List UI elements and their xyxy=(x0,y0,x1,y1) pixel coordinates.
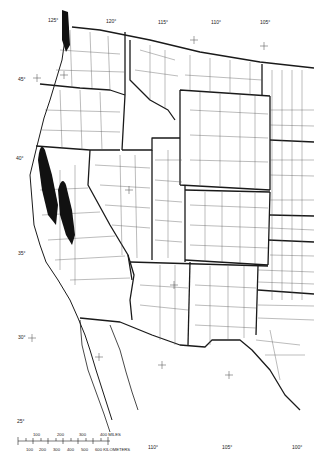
lon-label-105-top: 105° xyxy=(260,19,270,25)
scale-km-200: 200 xyxy=(39,447,46,452)
ut-north xyxy=(122,138,180,150)
nm-east xyxy=(256,266,258,335)
az-nm-border xyxy=(188,262,190,345)
ne-ks xyxy=(268,215,314,242)
scale-miles-100: 100 xyxy=(33,432,40,437)
lon-label-105-bottom: 105° xyxy=(222,444,232,450)
az-ca-river xyxy=(128,255,134,320)
ok-tx xyxy=(258,290,314,294)
lon-label-115-top: 115° xyxy=(158,19,168,25)
lon-label-120-top: 120° xyxy=(106,18,116,24)
county-lines xyxy=(40,30,314,380)
or-ca-border xyxy=(36,146,120,150)
lon-label-110-bottom: 110° xyxy=(148,444,158,450)
scale-km-400: 400 xyxy=(67,447,74,452)
scale-bar-lines xyxy=(18,437,110,445)
idaho-montana xyxy=(130,40,175,120)
wy-box xyxy=(180,90,270,190)
lon-label-125-top: 125° xyxy=(48,17,58,23)
shaded-region xyxy=(38,10,75,245)
lat-label-25: 25° xyxy=(17,418,25,424)
scale-km-500: 500 xyxy=(81,447,88,452)
scale-miles-300: 300 xyxy=(79,432,86,437)
lat-label-45: 45° xyxy=(18,76,26,82)
ca-nv-border xyxy=(88,150,132,280)
scale-miles-200: 200 xyxy=(57,432,64,437)
lat-label-30: 30° xyxy=(18,334,26,340)
idaho-west xyxy=(122,32,125,150)
lon-label-100-bottom: 100° xyxy=(292,444,302,450)
map-canvas: 125° 120° 115° 110° 105° 45° 40° 35° 30°… xyxy=(0,0,314,469)
scale-km-100: 100 xyxy=(26,447,33,452)
lat-label-40: 40° xyxy=(16,155,24,161)
lon-label-110-top: 110° xyxy=(211,19,221,25)
scale-miles-400: 400 MILES xyxy=(100,432,121,437)
lat-label-35: 35° xyxy=(18,250,26,256)
scale-km-300: 300 xyxy=(53,447,60,452)
gulf-coast xyxy=(110,325,138,410)
scale-km-600: 600 KILOMETERS xyxy=(95,447,130,452)
map-linework xyxy=(0,0,314,469)
baja-coast xyxy=(80,320,110,432)
